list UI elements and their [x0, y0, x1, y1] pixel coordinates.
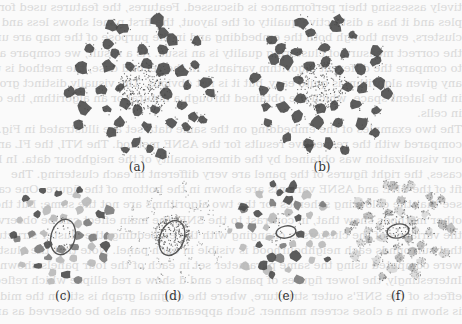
highlight-ellipse-d [155, 217, 190, 259]
subfigure-f-cluster-plot [344, 180, 457, 281]
subfigure-label-f: (f) [391, 289, 405, 303]
subfigure-label-d: (d) [164, 289, 181, 303]
highlight-ellipse-e [275, 224, 297, 239]
subfigure-b-cluster-plot [249, 14, 394, 155]
subfigure-label-a: (a) [129, 160, 146, 174]
figure [0, 0, 462, 324]
subfigure-label-b: (b) [313, 160, 330, 174]
subfigure-label-e: (e) [278, 289, 294, 303]
subfigure-label-c: (c) [55, 289, 71, 303]
subfigure-d-cluster-plot [117, 181, 228, 284]
subfigure-a-cluster-plot [64, 13, 219, 160]
subfigure-c-cluster-plot [9, 186, 114, 285]
subfigure-e-cluster-plot [227, 180, 337, 284]
